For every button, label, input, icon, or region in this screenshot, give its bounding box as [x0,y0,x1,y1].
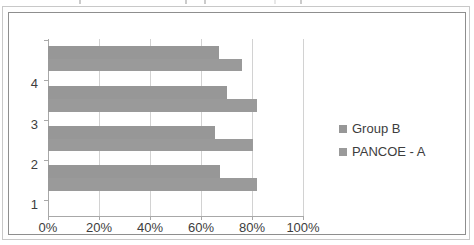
bar-group-b-cat-1 [48,165,220,178]
category-tick [44,200,48,201]
scan-speck [300,0,302,4]
scan-speck [274,0,276,4]
legend-label-group-b: Group B [352,121,400,136]
value-label-100: 100% [280,220,326,235]
value-label-40: 40% [127,220,173,235]
category-axis-labels: 4 3 2 1 [9,39,43,216]
category-axis-line [48,216,304,217]
chart-legend: Group B PANCOE - A [339,117,429,163]
category-tick [44,160,48,161]
bar-group-b-cat-4 [48,46,219,59]
legend-swatch-icon [339,125,347,133]
bar-pancoe-a-cat-1 [48,178,257,191]
gridline-100 [303,39,304,216]
category-label-4: 4 [9,77,38,91]
value-label-80: 80% [229,220,275,235]
value-label-60: 60% [178,220,224,235]
bar-pancoe-a-cat-2 [48,139,253,151]
legend-item-group-b[interactable]: Group B [339,117,429,140]
legend-item-pancoe-a[interactable]: PANCOE - A [339,140,429,163]
value-label-20: 20% [76,220,122,235]
category-label-1: 1 [9,198,38,212]
category-label-2: 2 [9,158,38,172]
category-label-3: 3 [9,118,38,132]
bar-group-b-cat-2 [48,126,215,139]
bar-group-b-cat-3 [48,86,227,99]
scan-artifact-strip [0,0,474,5]
scan-speck [79,0,81,4]
category-tick [44,80,48,81]
plot-area [48,39,303,216]
value-label-0: 0% [25,220,71,235]
chart-container: 4 3 2 1 [8,12,466,235]
bar-pancoe-a-cat-4 [48,59,242,71]
legend-swatch-icon [339,148,347,156]
scan-speck [204,0,206,4]
scan-speck [185,0,187,4]
bar-pancoe-a-cat-3 [48,99,257,112]
legend-label-pancoe-a: PANCOE - A [352,144,425,159]
category-tick [44,40,48,41]
category-tick [44,120,48,121]
value-axis-labels: 0% 20% 40% 60% 80% 100% [9,220,339,240]
